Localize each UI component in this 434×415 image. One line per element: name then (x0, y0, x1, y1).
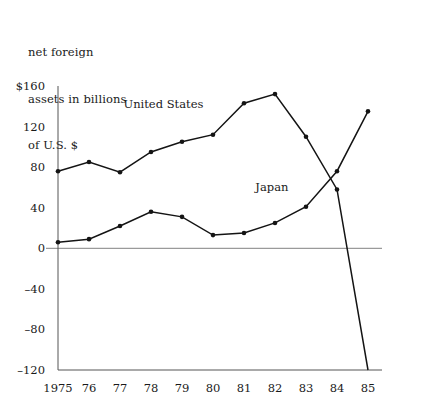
y-tick-label: 40 (30, 201, 45, 215)
y-tick-label: –120 (17, 363, 45, 377)
data-point (335, 169, 340, 174)
x-tick-label: 78 (144, 381, 159, 395)
y-tick-label: 120 (23, 120, 45, 134)
x-tick-label: 76 (82, 381, 97, 395)
x-tick-label: 77 (113, 381, 128, 395)
y-tick-label: $160 (16, 79, 45, 93)
data-point (211, 132, 216, 137)
x-tick-label: 79 (175, 381, 190, 395)
data-point (366, 109, 371, 114)
x-tick-label: 1975 (43, 381, 72, 395)
series-annotations: United StatesJapan (123, 97, 289, 194)
data-series-group (56, 92, 371, 370)
series-label: United States (123, 97, 203, 111)
y-tick-label: 0 (38, 241, 45, 255)
y-axis-tick-labels: $16012080400–40–80–120 (16, 79, 45, 377)
data-point (149, 209, 154, 214)
y-tick-label: –80 (25, 322, 45, 336)
data-point (304, 134, 309, 139)
data-point (180, 215, 185, 220)
data-point (87, 237, 92, 242)
x-tick-label: 85 (361, 381, 376, 395)
data-point (242, 231, 247, 236)
data-point (118, 170, 123, 175)
x-tick-label: 82 (268, 381, 283, 395)
data-point (304, 204, 309, 209)
data-point (56, 169, 61, 174)
series-label: Japan (254, 180, 289, 194)
x-tick-label: 81 (237, 381, 252, 395)
data-point (87, 160, 92, 165)
series-line-japan (58, 111, 368, 242)
data-point (211, 233, 216, 238)
x-tick-label: 84 (330, 381, 345, 395)
data-point (118, 224, 123, 229)
data-point (180, 139, 185, 144)
data-point (149, 150, 154, 155)
line-chart: $16012080400–40–80–120 19757677787980818… (0, 0, 434, 415)
x-tick-label: 80 (206, 381, 221, 395)
data-point (273, 221, 278, 226)
y-tick-label: 80 (30, 160, 45, 174)
data-point (335, 187, 340, 192)
data-point (56, 240, 61, 245)
data-point (242, 101, 247, 106)
x-tick-label: 83 (299, 381, 314, 395)
data-point (273, 92, 278, 97)
y-tick-label: –40 (25, 282, 45, 296)
x-axis-tick-labels: 197576777879808182838485 (43, 381, 375, 395)
chart-container: net foreign assets in billions of U.S. $… (0, 0, 434, 415)
